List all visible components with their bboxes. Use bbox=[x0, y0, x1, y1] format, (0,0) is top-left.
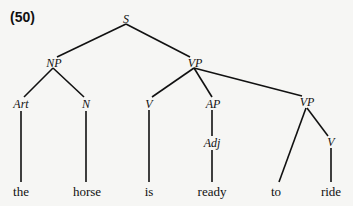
leaf-ride: ride bbox=[321, 185, 341, 198]
edge-vp2-to bbox=[279, 108, 306, 182]
leaf-the: the bbox=[13, 185, 29, 198]
node-v-inner: V bbox=[327, 136, 334, 148]
node-n: N bbox=[82, 98, 90, 110]
edge-vp2-v bbox=[307, 108, 328, 136]
edge-vp-v bbox=[152, 68, 194, 97]
node-vp: VP bbox=[188, 57, 203, 69]
node-v: V bbox=[145, 98, 152, 110]
node-vp-inner: VP bbox=[300, 96, 315, 108]
leaf-to: to bbox=[271, 185, 281, 198]
node-ap: AP bbox=[206, 98, 221, 110]
leaf-is: is bbox=[145, 185, 154, 198]
edge-s-np bbox=[57, 24, 126, 57]
edge-vp-vp bbox=[194, 68, 302, 96]
node-s: S bbox=[123, 13, 129, 25]
node-art: Art bbox=[13, 98, 28, 110]
node-adj: Adj bbox=[204, 137, 221, 149]
leaf-ready: ready bbox=[198, 185, 227, 198]
leaf-horse: horse bbox=[73, 185, 101, 198]
edge-np-art bbox=[24, 68, 53, 97]
edge-s-vp bbox=[126, 24, 190, 57]
edge-np-n bbox=[53, 68, 84, 97]
node-np: NP bbox=[46, 57, 61, 69]
